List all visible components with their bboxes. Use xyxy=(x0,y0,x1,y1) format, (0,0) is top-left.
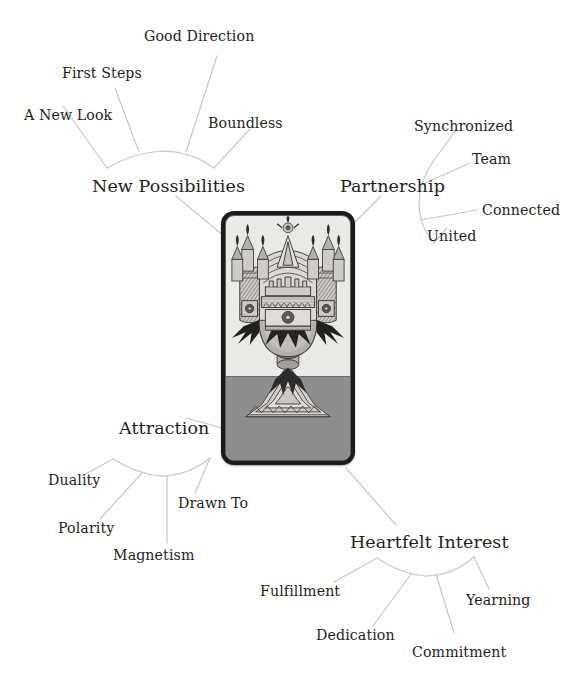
leaf-label-first-steps[interactable]: First Steps xyxy=(62,66,142,80)
line-attraction-arc-right xyxy=(161,458,210,476)
line-yearning xyxy=(474,557,489,589)
branch-label-partnership[interactable]: Partnership xyxy=(340,178,445,196)
ace-of-cups-illustration xyxy=(226,216,350,458)
leaf-label-a-new-look[interactable]: A New Look xyxy=(24,108,112,122)
mind-map-canvas: New Possibilities Partnership Attraction… xyxy=(0,0,579,673)
leaf-label-team[interactable]: Team xyxy=(472,152,511,166)
leaf-label-magnetism[interactable]: Magnetism xyxy=(113,548,194,562)
line-new-possibilities-arc-left xyxy=(107,151,162,168)
branch-label-new-possibilities[interactable]: New Possibilities xyxy=(92,178,245,196)
line-attraction-arc-left xyxy=(113,459,161,476)
leaf-label-dedication[interactable]: Dedication xyxy=(316,628,395,642)
line-card-to-heartfelt xyxy=(346,468,396,525)
tarot-card[interactable] xyxy=(221,211,355,465)
line-first-steps xyxy=(115,88,139,152)
leaf-label-fulfillment[interactable]: Fulfillment xyxy=(260,584,340,598)
branch-label-heartfelt-interest[interactable]: Heartfelt Interest xyxy=(350,534,509,552)
line-drawn-to xyxy=(195,458,210,493)
leaf-label-commitment[interactable]: Commitment xyxy=(412,645,506,659)
line-connected xyxy=(421,210,477,220)
leaf-label-united[interactable]: United xyxy=(427,229,476,243)
leaf-label-connected[interactable]: Connected xyxy=(482,203,560,217)
branch-label-attraction[interactable]: Attraction xyxy=(119,420,209,438)
line-heartfelt-arc-right xyxy=(425,557,474,576)
leaf-label-synchronized[interactable]: Synchronized xyxy=(414,119,513,133)
leaf-label-good-direction[interactable]: Good Direction xyxy=(144,29,254,43)
line-boundless xyxy=(214,129,250,168)
line-commitment xyxy=(436,574,454,633)
tarot-card-inner xyxy=(225,215,351,461)
leaf-label-drawn-to[interactable]: Drawn To xyxy=(178,496,248,510)
leaf-label-duality[interactable]: Duality xyxy=(48,473,100,487)
leaf-label-polarity[interactable]: Polarity xyxy=(58,521,114,535)
line-good-direction xyxy=(186,56,217,152)
leaf-label-boundless[interactable]: Boundless xyxy=(208,116,283,130)
line-heartfelt-arc-left xyxy=(377,558,425,576)
leaf-label-yearning[interactable]: Yearning xyxy=(466,593,530,607)
line-dedication xyxy=(373,574,411,626)
line-new-possibilities-arc-right xyxy=(162,151,214,168)
line-synchronized xyxy=(434,130,456,160)
line-polarity xyxy=(100,473,142,519)
line-fulfillment xyxy=(334,558,377,582)
